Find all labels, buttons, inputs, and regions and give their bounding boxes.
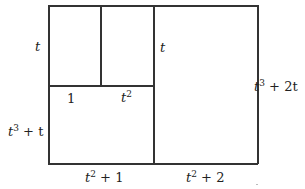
label-inner-1: 1 <box>67 92 75 105</box>
label-left-top-t: t <box>35 40 40 53</box>
label-right-height: t3 + 2t <box>254 79 298 93</box>
label-bottom-right-width: t2 + 2 <box>186 170 224 184</box>
label-bottom-left-width: t2 + 1 <box>85 170 123 184</box>
top-left-vertical-divider <box>100 5 102 86</box>
label-inner-t-squared: t2 <box>121 90 132 104</box>
faint-mark <box>256 184 258 185</box>
label-middle-t: t <box>160 41 165 54</box>
label-left-bottom: t3 + t <box>8 124 43 138</box>
